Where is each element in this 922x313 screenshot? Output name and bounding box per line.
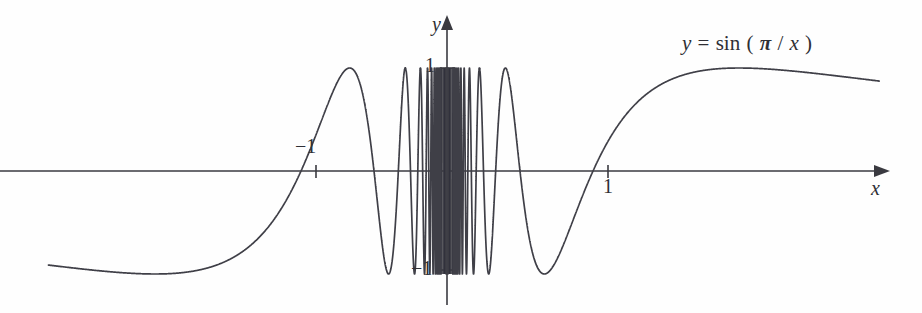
x-tick-label-negative-one: −1: [295, 136, 316, 156]
equation-close-paren: ): [804, 31, 813, 55]
x-axis-label: x: [871, 178, 880, 198]
equation-equals: =: [697, 31, 711, 55]
x-tick-label-positive-one: 1: [603, 176, 613, 196]
equation-variable: x: [790, 31, 799, 55]
equation-function-name: sin: [716, 31, 741, 55]
pi-symbol: π: [760, 31, 771, 55]
y-tick-label-negative-one: −1: [411, 258, 432, 278]
equation-open-paren: (: [745, 31, 754, 55]
function-graph-figure: y x 1 −1 −1 1 y = sin ( π / x ): [0, 0, 922, 313]
x-axis-arrowhead: [874, 165, 890, 177]
y-axis-arrowhead: [441, 15, 453, 30]
y-axis-label: y: [432, 14, 441, 34]
equation-slash: /: [776, 31, 784, 55]
dense-oscillation-smear: [446, 68, 448, 274]
y-tick-label-positive-one: 1: [425, 55, 435, 75]
curve-equation-label: y = sin ( π / x ): [682, 33, 813, 54]
equation-lhs: y: [682, 31, 691, 55]
